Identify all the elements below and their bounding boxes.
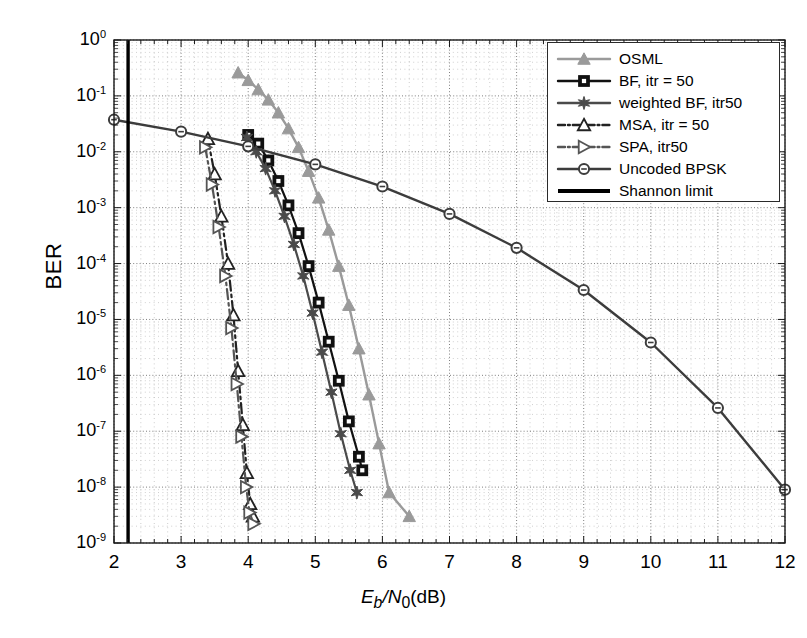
x-axis-label: Eb/N0(dB) <box>0 586 807 612</box>
y-axis-tick-label: 100 <box>42 28 106 50</box>
x-axis-label-unit: (dB) <box>410 586 446 607</box>
x-axis-tick-label: 5 <box>295 551 335 573</box>
y-axis-tick-label: 10-6 <box>42 363 106 385</box>
y-axis-tick-label: 10-1 <box>42 84 106 106</box>
data-marker <box>579 164 589 174</box>
x-axis-tick-label: 10 <box>631 551 671 573</box>
x-axis-label-zero: 0 <box>401 594 410 611</box>
legend-swatch <box>555 71 613 91</box>
data-marker <box>512 243 522 253</box>
data-marker <box>357 465 367 475</box>
x-axis-tick-label: 3 <box>161 551 201 573</box>
x-axis-tick-label: 11 <box>698 551 738 573</box>
x-axis-tick-label: 7 <box>430 551 470 573</box>
x-axis-label-N: N <box>388 586 402 607</box>
legend-swatch <box>555 181 613 201</box>
legend-label: MSA, itr = 50 <box>613 116 709 134</box>
x-axis-tick-label: 8 <box>497 551 537 573</box>
legend-label: Shannon limit <box>613 182 713 200</box>
y-axis-tick-label: 10-3 <box>42 196 106 218</box>
x-axis-tick-label: 6 <box>362 551 402 573</box>
legend-label: Uncoded BPSK <box>613 160 727 178</box>
y-axis-tick-label: 10-9 <box>42 531 106 553</box>
y-axis-tick-label: 10-5 <box>42 307 106 329</box>
y-axis-tick-label: 10-2 <box>42 140 106 162</box>
data-marker <box>344 416 354 426</box>
legend-swatch <box>555 115 613 135</box>
data-marker <box>579 141 590 153</box>
data-marker <box>646 337 656 347</box>
x-axis-tick-label: 2 <box>94 551 134 573</box>
legend-item-5[interactable]: Uncoded BPSK <box>548 158 779 180</box>
y-axis-tick-label: 10-7 <box>42 419 106 441</box>
data-marker <box>334 376 344 386</box>
legend-item-3[interactable]: MSA, itr = 50 <box>548 114 779 136</box>
x-axis-tick-label: 12 <box>765 551 805 573</box>
legend-item-1[interactable]: BF, itr = 50 <box>548 70 779 92</box>
legend-label: OSML <box>613 50 663 68</box>
legend-label: weighted BF, itr50 <box>613 94 742 112</box>
legend-item-4[interactable]: SPA, itr50 <box>548 136 779 158</box>
legend-label: SPA, itr50 <box>613 138 688 156</box>
data-marker <box>579 76 589 86</box>
data-marker <box>310 159 320 169</box>
legend-item-0[interactable]: OSML <box>548 48 779 70</box>
data-marker <box>324 337 334 347</box>
data-marker <box>283 200 293 210</box>
legend: OSMLBF, itr = 50weighted BF, itr50MSA, i… <box>547 42 780 202</box>
data-marker <box>713 403 723 413</box>
ber-chart-figure: BER Eb/N0(dB) 10010-110-210-310-410-510-… <box>0 0 807 638</box>
legend-swatch <box>555 137 613 157</box>
x-axis-label-E: E <box>361 586 374 607</box>
legend-item-2[interactable]: weighted BF, itr50 <box>548 92 779 114</box>
data-marker <box>243 141 253 151</box>
data-marker <box>579 285 589 295</box>
legend-rows: OSMLBF, itr = 50weighted BF, itr50MSA, i… <box>548 48 779 202</box>
legend-item-6[interactable]: Shannon limit <box>548 180 779 202</box>
legend-label: BF, itr = 50 <box>613 72 694 90</box>
data-marker <box>377 181 387 191</box>
x-axis-tick-label: 9 <box>564 551 604 573</box>
y-axis-tick-label: 10-4 <box>42 252 106 274</box>
data-marker <box>176 127 186 137</box>
data-marker <box>354 452 364 462</box>
data-marker <box>444 209 454 219</box>
y-axis-tick-label: 10-8 <box>42 475 106 497</box>
data-marker <box>304 261 314 271</box>
legend-swatch <box>555 93 613 113</box>
data-marker <box>314 298 324 308</box>
x-axis-tick-label: 4 <box>228 551 268 573</box>
legend-swatch <box>555 159 613 179</box>
legend-swatch <box>555 49 613 69</box>
data-marker <box>293 228 303 238</box>
